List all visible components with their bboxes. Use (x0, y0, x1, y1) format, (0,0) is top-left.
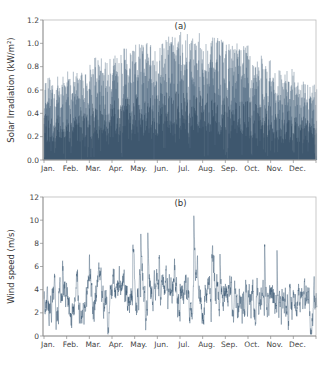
x-tick-label: Oct. (244, 340, 259, 349)
y-axis-ticks: 024681012 (29, 193, 43, 341)
y-tick-label: 1.2 (27, 16, 39, 25)
data-series (44, 32, 317, 160)
x-tick-label: Jul. (177, 340, 189, 349)
y-tick-label: 0.8 (27, 62, 39, 71)
solar-irradiation-chart: 0.00.20.40.60.81.01.2Jan.Feb.Mar.Apr.May… (6, 16, 317, 173)
y-tick-label: 8 (34, 239, 39, 248)
y-axis-ticks: 0.00.20.40.60.81.01.2 (27, 16, 43, 165)
y-tick-label: 0.4 (27, 109, 39, 118)
y-axis-label: Wind speed (m/s) (6, 229, 16, 304)
y-tick-label: 0 (34, 332, 39, 341)
chart-figure: 0.00.20.40.60.81.01.2Jan.Feb.Mar.Apr.May… (0, 0, 331, 365)
x-axis-ticks: Jan.Feb.Mar.Apr.May.Jun.Jul.Aug.Sep.Oct.… (40, 336, 316, 349)
x-tick-label: Mar. (85, 164, 101, 173)
x-tick-label: Dec. (289, 340, 306, 349)
x-tick-label: Dec. (289, 164, 306, 173)
x-tick-label: Feb. (63, 340, 79, 349)
wind-speed-chart: 024681012Jan.Feb.Mar.Apr.May.Jun.Jul.Aug… (6, 193, 317, 349)
data-series (44, 216, 317, 335)
x-tick-label: Nov. (266, 340, 282, 349)
y-tick-label: 1.0 (27, 39, 39, 48)
panel-label: (b) (174, 198, 186, 208)
x-axis-ticks: Jan.Feb.Mar.Apr.May.Jun.Jul.Aug.Sep.Oct.… (40, 160, 316, 173)
y-tick-label: 10 (29, 216, 39, 225)
x-tick-label: Mar. (85, 340, 101, 349)
x-tick-label: Nov. (266, 164, 282, 173)
x-tick-label: Sep. (221, 164, 238, 173)
x-tick-label: Apr. (109, 340, 124, 349)
y-tick-label: 6 (34, 262, 39, 271)
y-tick-label: 4 (34, 285, 39, 294)
x-tick-label: Jun. (153, 340, 168, 349)
y-tick-label: 0.2 (27, 132, 39, 141)
x-tick-label: Oct. (244, 164, 259, 173)
panel-label: (a) (175, 21, 187, 31)
x-tick-label: Jan. (40, 164, 55, 173)
x-tick-label: Jun. (153, 164, 168, 173)
x-tick-label: May. (130, 164, 147, 173)
y-axis-label: Solar Irradiation (kW/m²) (6, 37, 16, 142)
x-tick-label: Aug. (198, 340, 215, 349)
x-tick-label: Jul. (177, 164, 189, 173)
y-tick-label: 0.6 (27, 86, 39, 95)
x-tick-label: Feb. (63, 164, 79, 173)
x-tick-label: Jan. (40, 340, 55, 349)
x-tick-label: May. (130, 340, 147, 349)
y-tick-label: 0.0 (27, 156, 39, 165)
x-tick-label: Aug. (198, 164, 215, 173)
x-tick-label: Apr. (109, 164, 124, 173)
x-tick-label: Sep. (221, 340, 238, 349)
y-tick-label: 12 (29, 193, 39, 202)
y-tick-label: 2 (34, 308, 39, 317)
